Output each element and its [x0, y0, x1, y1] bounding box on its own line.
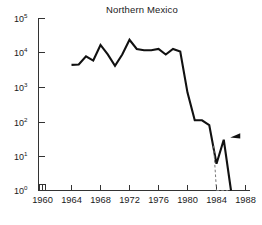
x-tick-label-1972: 1972 — [119, 195, 140, 205]
y-tick-label-1e0: 100 — [14, 184, 28, 196]
arrow-marker-icon — [230, 133, 240, 138]
y-tick-label-1e1: 101 — [14, 150, 28, 162]
y-tick-labels-group: 105 104 103 102 101 100 — [14, 12, 28, 196]
x-tick-label-1964: 1964 — [61, 195, 82, 205]
x-axis-group — [39, 184, 250, 191]
data-series-line — [72, 40, 232, 191]
x-tick-labels-group: 1960 1964 1968 1972 1976 1980 1984 1988 — [32, 195, 256, 205]
x-tick-label-1988: 1988 — [235, 195, 256, 205]
x-tick-label-1968: 1968 — [90, 195, 111, 205]
chart-figure: Northern Mexico 105 104 103 102 101 100 — [0, 0, 262, 225]
y-tick-label-1e4: 104 — [14, 46, 28, 58]
y-tick-label-1e5: 105 — [14, 12, 28, 24]
y-tick-label-1e2: 102 — [14, 116, 28, 128]
x-tick-label-1980: 1980 — [177, 195, 198, 205]
x-tick-label-1960: 1960 — [32, 195, 53, 205]
x-tick-label-1984: 1984 — [206, 195, 227, 205]
chart-plot-area: 105 104 103 102 101 100 1960 1964 1968 1… — [0, 0, 262, 225]
y-axis-group — [39, 18, 45, 191]
y-tick-label-1e3: 103 — [14, 81, 28, 93]
x-tick-label-1976: 1976 — [148, 195, 169, 205]
cropped-caption — [0, 210, 262, 225]
